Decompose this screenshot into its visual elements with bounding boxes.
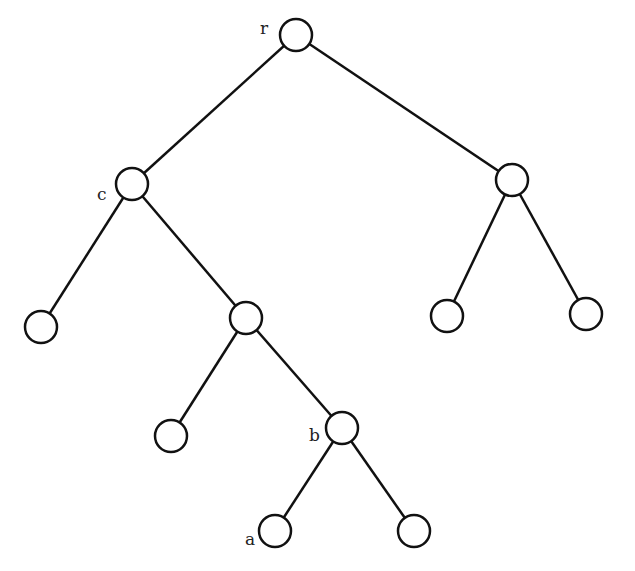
tree-diagram: r c b a <box>0 0 635 571</box>
tree-node-n7 <box>155 420 187 452</box>
tree-svg <box>0 0 635 571</box>
tree-node-c <box>116 168 148 200</box>
tree-node-n4 <box>230 302 262 334</box>
edge <box>342 428 414 531</box>
tree-node-n2 <box>496 164 528 196</box>
tree-node-n9 <box>398 515 430 547</box>
tree-node-a <box>259 515 291 547</box>
edge <box>132 35 296 184</box>
tree-node-r <box>280 19 312 51</box>
label-r: r <box>260 18 268 38</box>
edge <box>132 184 246 318</box>
edge <box>41 184 132 327</box>
label-c: c <box>97 184 107 204</box>
edge <box>246 318 342 428</box>
tree-node-n5 <box>431 300 463 332</box>
tree-node-n6 <box>570 298 602 330</box>
label-b: b <box>309 425 320 445</box>
edge <box>171 318 246 436</box>
edge <box>447 180 512 316</box>
tree-node-b <box>326 412 358 444</box>
label-a: a <box>245 529 255 549</box>
edge <box>512 180 586 314</box>
edge <box>296 35 512 180</box>
tree-node-n3 <box>25 311 57 343</box>
